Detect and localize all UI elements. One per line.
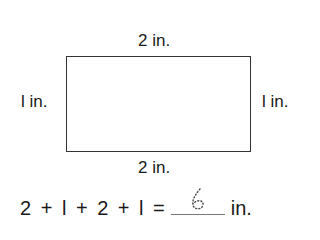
left-side-label: l in. [21,93,47,110]
bottom-side-label: 2 in. [138,159,170,176]
equation-expression: 2 + l + 2 + l = [20,198,165,218]
unit-label: in. [231,198,252,218]
perimeter-equation: 2 + l + 2 + l = in. [20,194,252,218]
answer-blank[interactable] [171,194,225,215]
rectangle-figure [66,56,251,152]
answer-traced-digit [171,187,225,213]
top-side-label: 2 in. [138,32,170,49]
right-side-label: l in. [262,93,288,110]
dotted-six-icon [189,187,207,213]
